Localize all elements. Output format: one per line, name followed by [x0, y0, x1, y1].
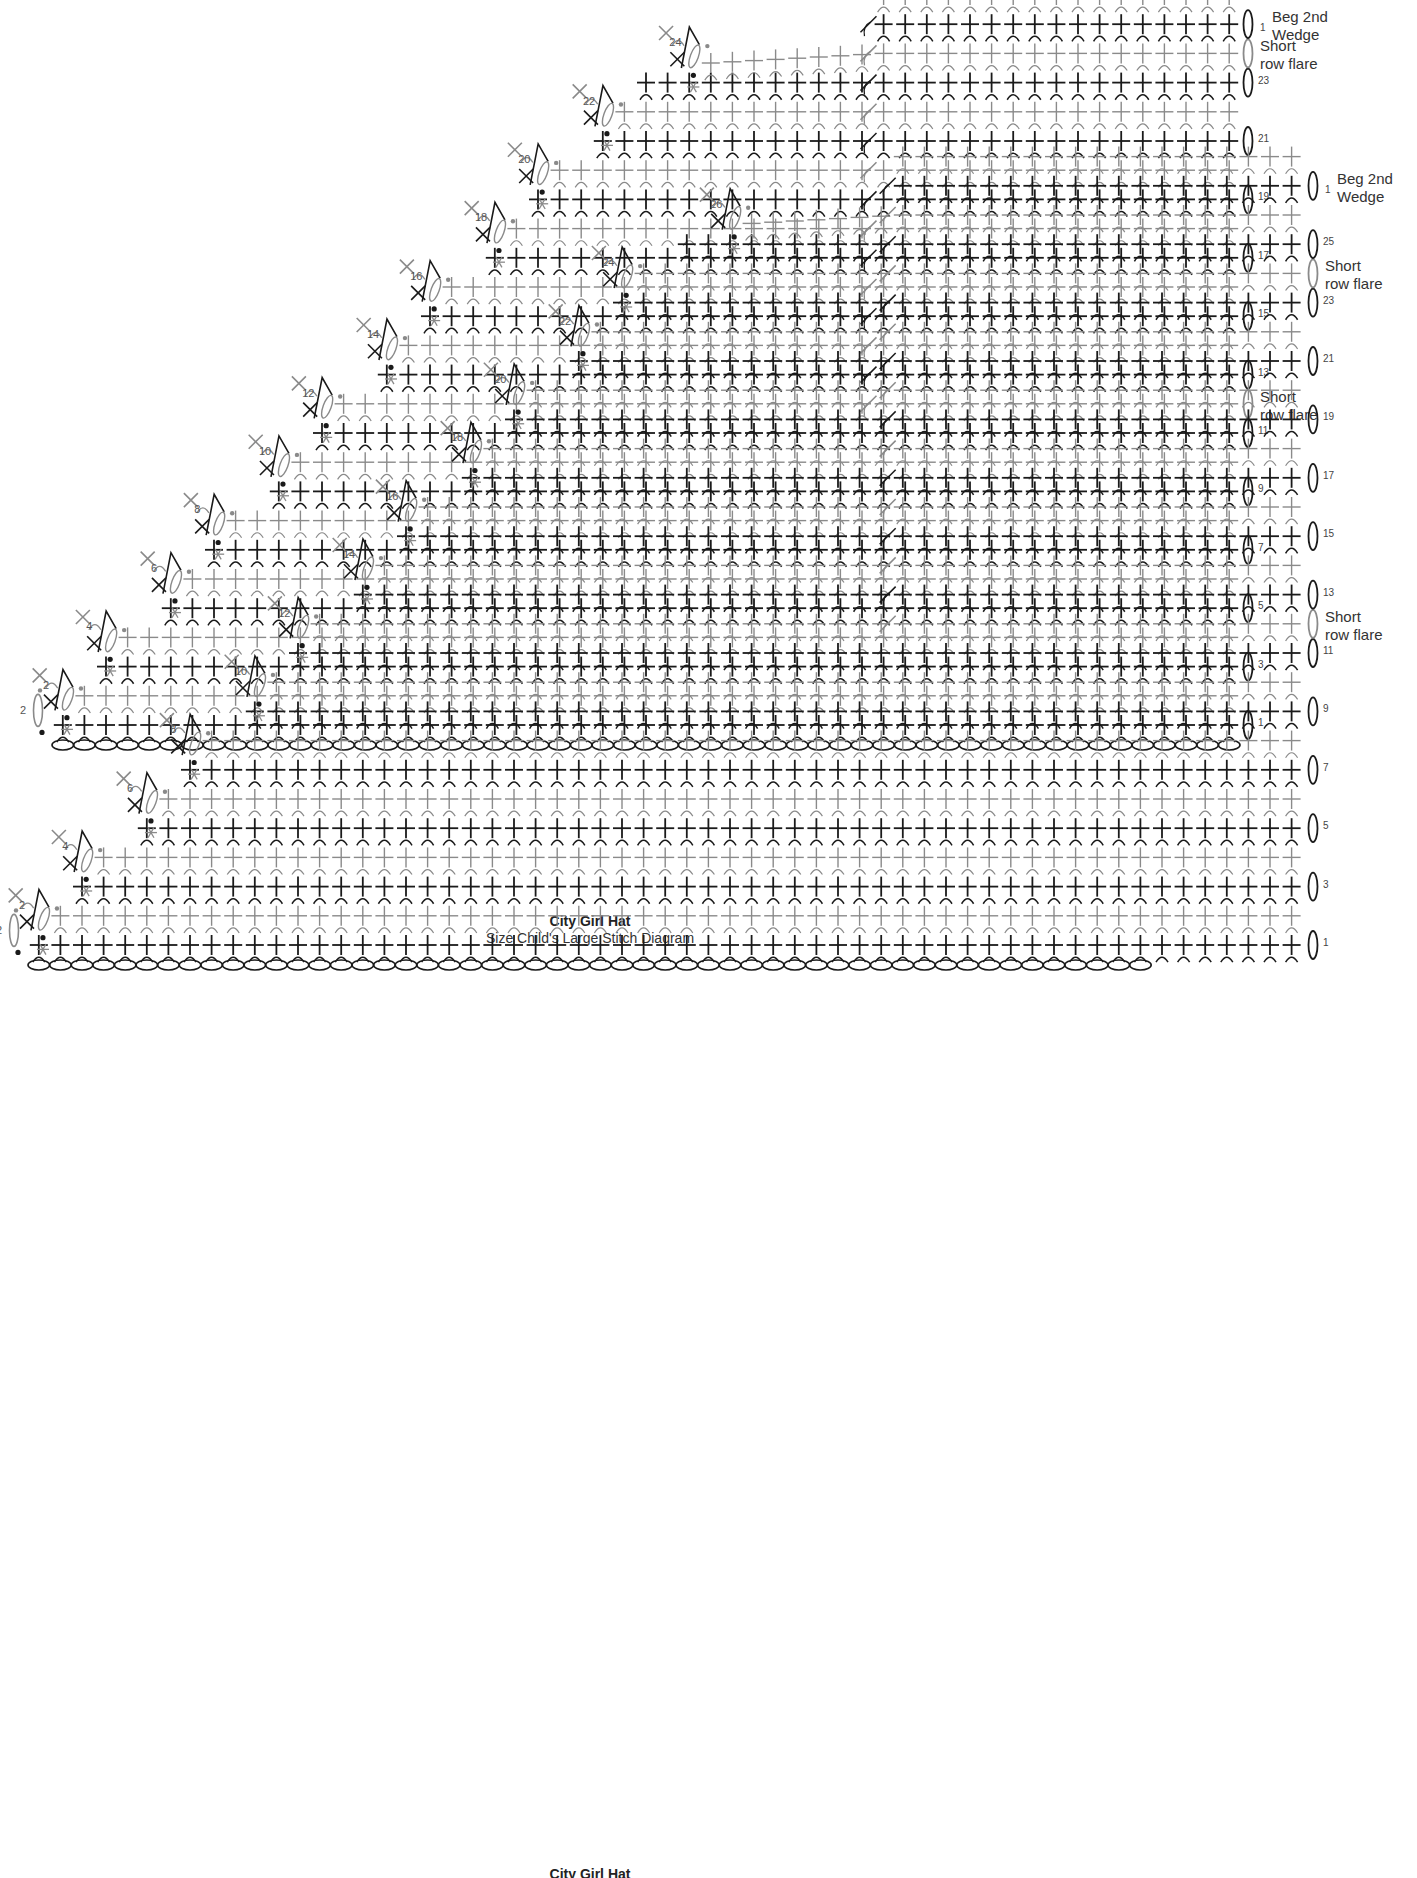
row-number: 17	[1323, 470, 1334, 481]
row-number: 15	[1323, 528, 1334, 539]
svg-text:12: 12	[278, 607, 290, 619]
row-number: 11	[1323, 645, 1333, 656]
row-number: 1	[1323, 937, 1329, 948]
svg-text:16: 16	[386, 490, 398, 502]
svg-text:26: 26	[710, 198, 722, 210]
row-number: 21	[1323, 353, 1334, 364]
row-number: 19	[1323, 411, 1334, 422]
row-number: 13	[1323, 587, 1334, 598]
svg-text:2: 2	[19, 899, 25, 911]
svg-text:22: 22	[559, 315, 571, 327]
caption-title: City Girl Hat	[0, 1866, 1180, 1878]
label-short-row-flare: Shortrow flare	[1325, 608, 1383, 644]
row-number: 5	[1323, 820, 1329, 831]
svg-text:2: 2	[0, 924, 2, 936]
svg-text:6: 6	[127, 782, 133, 794]
label-beg-2nd-wedge: Beg 2ndWedge	[1337, 170, 1393, 206]
svg-text:8: 8	[170, 723, 176, 735]
row-number: 7	[1323, 762, 1329, 773]
row-number: 23	[1323, 295, 1334, 306]
row-number: 25	[1323, 236, 1334, 247]
diagram-caption: City Girl Hat	[0, 1866, 1180, 1878]
stitch-grid: 24681012141618202224262	[0, 0, 1417, 1878]
svg-text:24: 24	[602, 256, 614, 268]
row-number: 1	[1325, 184, 1331, 195]
stitch-diagram-second-size: 24681012141618202224262 1357911Shortrow …	[0, 0, 1417, 1878]
stitches: 24681012141618202224262	[0, 147, 1318, 970]
svg-text:18: 18	[451, 431, 463, 443]
row-number: 3	[1323, 879, 1329, 890]
svg-text:20: 20	[494, 373, 506, 385]
svg-text:4: 4	[62, 840, 68, 852]
svg-text:10: 10	[235, 665, 247, 677]
row-number: 9	[1323, 703, 1329, 714]
label-short-row-flare: Shortrow flare	[1325, 257, 1383, 293]
svg-text:14: 14	[343, 548, 355, 560]
